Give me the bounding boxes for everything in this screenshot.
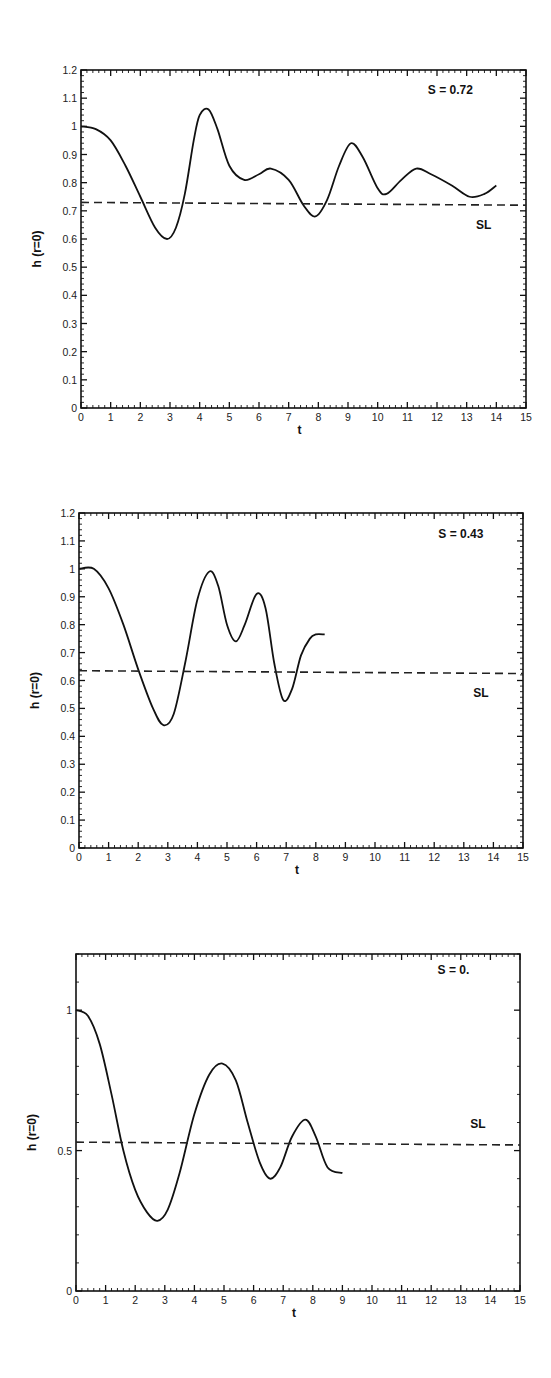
x-tick-label: 11 — [396, 1294, 407, 1306]
y-tick-label: 1 — [69, 563, 75, 575]
y-tick-label: 0.5 — [57, 1145, 72, 1157]
x-tick-label: 7 — [286, 411, 292, 423]
x-tick-label: 15 — [517, 851, 529, 863]
x-tick-label: 4 — [191, 1294, 197, 1306]
x-axis-ticks — [79, 513, 523, 848]
h-curve — [81, 109, 496, 239]
plot-frame — [76, 954, 520, 1291]
x-tick-label: 13 — [458, 851, 470, 863]
x-tick-label: 5 — [226, 411, 232, 423]
x-axis-title: t — [295, 863, 299, 877]
y-tick-label: 0.3 — [62, 318, 77, 330]
y-tick-label: 0.5 — [62, 261, 77, 273]
x-tick-label: 0 — [73, 1294, 79, 1306]
x-tick-label: 10 — [369, 851, 381, 863]
x-tick-label: 15 — [520, 411, 532, 423]
y-tick-label: 0.4 — [62, 289, 77, 301]
sl-dashed-line — [79, 671, 523, 674]
x-tick-label: 13 — [455, 1294, 467, 1306]
x-tick-label: 9 — [342, 851, 348, 863]
y-tick-label: 0.6 — [62, 233, 77, 245]
x-tick-label: 13 — [461, 411, 473, 423]
y-tick-label: 0.7 — [60, 647, 75, 659]
sl-dashed-line — [76, 1142, 520, 1145]
y-axis-title: h (r=0) — [25, 1114, 39, 1151]
x-tick-label: 12 — [431, 411, 443, 423]
y-axis-ticks — [81, 70, 526, 408]
x-tick-label: 5 — [221, 1294, 227, 1306]
x-tick-label: 5 — [224, 851, 230, 863]
x-tick-labels: 0123456789101112131415 — [73, 1294, 526, 1306]
x-tick-label: 6 — [254, 851, 260, 863]
y-tick-label: 1 — [66, 1004, 72, 1016]
x-tick-label: 14 — [490, 411, 502, 423]
x-tick-label: 10 — [366, 1294, 378, 1306]
sl-label: SL — [470, 1117, 485, 1131]
x-tick-label: 0 — [76, 851, 82, 863]
y-tick-label: 0.1 — [60, 814, 75, 826]
x-tick-label: 1 — [106, 851, 112, 863]
y-axis-title: h (r=0) — [30, 230, 44, 267]
x-tick-label: 8 — [310, 1294, 316, 1306]
x-axis-title: t — [292, 1306, 296, 1320]
x-tick-label: 8 — [313, 851, 319, 863]
x-tick-label: 2 — [135, 851, 141, 863]
parameter-annotation: S = 0.72 — [428, 83, 473, 97]
x-tick-label: 3 — [162, 1294, 168, 1306]
x-tick-labels: 0123456789101112131415 — [76, 851, 529, 863]
y-axis-title: h (r=0) — [28, 672, 42, 709]
x-tick-label: 7 — [283, 851, 289, 863]
x-tick-label: 2 — [132, 1294, 138, 1306]
x-tick-label: 9 — [339, 1294, 345, 1306]
x-tick-label: 14 — [485, 1294, 497, 1306]
chart-panel-3: 012345678910111213141500.51th (r=0)S = 0… — [25, 954, 526, 1320]
sl-label: SL — [473, 686, 488, 700]
x-tick-label: 10 — [372, 411, 384, 423]
x-tick-label: 7 — [280, 1294, 286, 1306]
y-tick-label: 1.2 — [60, 507, 75, 519]
plot-frame — [79, 513, 523, 848]
x-axis-title: t — [298, 423, 302, 437]
h-curve — [79, 567, 325, 725]
x-tick-label: 1 — [108, 411, 114, 423]
y-tick-label: 0.4 — [60, 730, 75, 742]
x-axis-ticks — [76, 954, 520, 1291]
y-tick-label: 0.8 — [62, 177, 77, 189]
y-tick-labels: 00.51 — [57, 1004, 72, 1297]
x-tick-label: 9 — [345, 411, 351, 423]
y-tick-label: 0.8 — [60, 619, 75, 631]
plot-frame — [81, 70, 526, 408]
y-tick-label: 1.1 — [62, 92, 77, 104]
y-tick-labels: 00.10.20.30.40.50.60.70.80.911.11.2 — [60, 507, 75, 854]
parameter-annotation: S = 0. — [438, 963, 470, 977]
x-tick-labels: 0123456789101112131415 — [78, 411, 532, 423]
y-tick-label: 0.9 — [60, 591, 75, 603]
sl-label: SL — [476, 218, 491, 232]
x-tick-label: 6 — [251, 1294, 257, 1306]
y-tick-label: 0.9 — [62, 149, 77, 161]
x-tick-label: 11 — [402, 411, 413, 423]
y-tick-label: 0.3 — [60, 758, 75, 770]
y-tick-label: 0.2 — [60, 786, 75, 798]
y-axis-ticks — [79, 513, 523, 848]
figure-canvas: 012345678910111213141500.10.20.30.40.50.… — [0, 0, 551, 1378]
y-tick-label: 0 — [71, 402, 77, 414]
x-tick-label: 15 — [514, 1294, 526, 1306]
x-tick-label: 4 — [194, 851, 200, 863]
x-axis-ticks — [81, 70, 526, 408]
x-tick-label: 1 — [103, 1294, 109, 1306]
x-tick-label: 12 — [425, 1294, 437, 1306]
x-tick-label: 6 — [256, 411, 262, 423]
y-tick-labels: 00.10.20.30.40.50.60.70.80.911.11.2 — [62, 64, 77, 414]
y-tick-label: 1.2 — [62, 64, 77, 76]
x-tick-label: 3 — [165, 851, 171, 863]
y-tick-label: 0.6 — [60, 675, 75, 687]
y-tick-label: 1.1 — [60, 535, 75, 547]
h-curve — [76, 1010, 342, 1221]
y-tick-label: 0.5 — [60, 702, 75, 714]
x-tick-label: 0 — [78, 411, 84, 423]
x-tick-label: 12 — [428, 851, 440, 863]
chart-panel-2: 012345678910111213141500.10.20.30.40.50.… — [28, 507, 529, 877]
parameter-annotation: S = 0.43 — [438, 527, 483, 541]
x-tick-label: 14 — [488, 851, 500, 863]
